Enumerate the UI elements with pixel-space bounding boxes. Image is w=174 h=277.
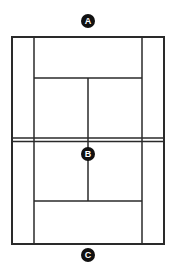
marker-b: B: [81, 147, 95, 161]
marker-a-label: A: [85, 16, 92, 26]
marker-b-label: B: [85, 149, 92, 159]
marker-a: A: [81, 14, 95, 28]
marker-c: C: [81, 248, 95, 262]
tennis-court-diagram: A B C: [0, 0, 174, 277]
marker-c-label: C: [85, 250, 92, 260]
